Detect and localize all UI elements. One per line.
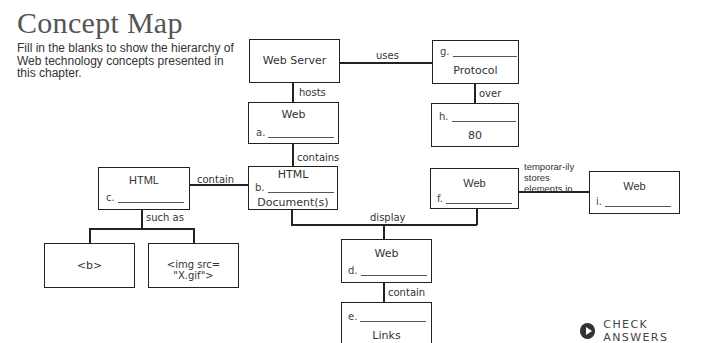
node-port: h. 80 (431, 103, 519, 147)
edge-contain-bottom (383, 282, 385, 303)
page-title: Concept Map (17, 6, 183, 40)
blank-i-input[interactable] (605, 197, 671, 207)
edge-over (474, 83, 476, 104)
edge-hosts (292, 82, 294, 103)
instructions: Fill in the blanks to show the hierarchy… (17, 42, 237, 80)
edge-uses (340, 62, 433, 64)
edge-label-over: over (479, 88, 501, 99)
blank-a-input[interactable] (268, 128, 334, 138)
edge-display-left (291, 209, 293, 224)
edge-label-contains: contains (297, 152, 339, 163)
node-protocol: g. Protocol (432, 40, 519, 84)
edge-such-as-left (89, 228, 91, 244)
blank-e-input[interactable] (360, 312, 426, 322)
edge-label-such-as: such as (146, 212, 184, 223)
edge-label-display: display (370, 212, 406, 223)
node-links: e. Links (341, 302, 432, 343)
edge-label-contain-left: contain (197, 174, 234, 185)
node-web-a: Web a. (248, 102, 339, 144)
blank-h-input[interactable] (452, 112, 516, 122)
node-web-d: Web d. (341, 239, 432, 283)
node-tag-img: <img src= "X.gif"> (148, 243, 239, 288)
blank-g-input[interactable] (453, 47, 517, 57)
node-web-i: Web i. (589, 171, 680, 214)
blank-d-input[interactable] (361, 266, 427, 276)
edge-contains (292, 143, 294, 167)
edge-label-uses: uses (376, 50, 399, 61)
blank-f-input[interactable] (446, 194, 512, 204)
edge-display-down (383, 224, 385, 240)
node-html-document: HTML b. Document(s) (248, 166, 338, 210)
node-web-f: Web f. (430, 168, 519, 209)
blank-b-input[interactable] (268, 183, 334, 193)
check-answers-button[interactable]: CHECK ANSWERS (580, 318, 713, 343)
blank-c-input[interactable] (118, 193, 184, 203)
node-tag-b: <b> (44, 243, 135, 288)
edge-such-as (141, 209, 143, 228)
edge-label-stores: temporar-ily stores elements in (524, 161, 588, 194)
edge-label-contain-bottom: contain (388, 287, 425, 298)
edge-display-right (476, 208, 478, 225)
edge-such-as-bar (89, 228, 194, 230)
node-html-c: HTML c. (98, 167, 190, 210)
edge-such-as-right (193, 228, 195, 244)
play-icon (580, 323, 595, 339)
edge-label-hosts: hosts (299, 87, 326, 98)
node-web-server: Web Server (249, 39, 340, 83)
